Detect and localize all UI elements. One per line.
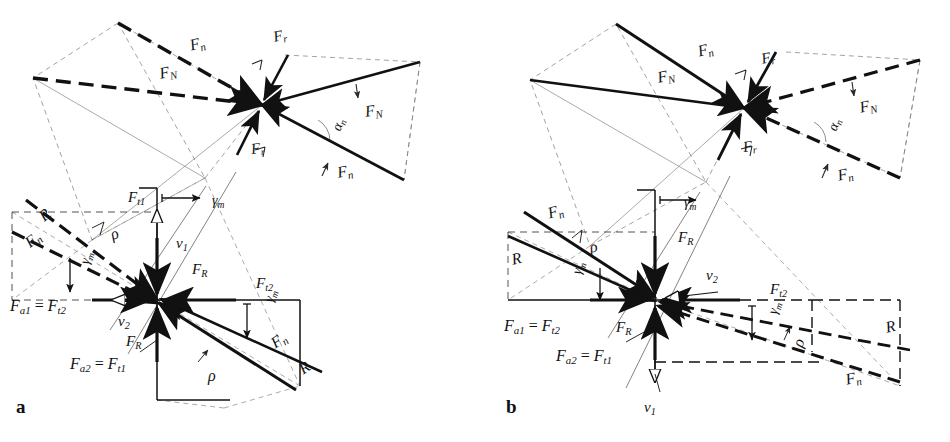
panel-a-label-fR-lower: FR xyxy=(126,334,141,351)
construction-outline-upper-right-b xyxy=(744,52,920,178)
panel-b-label-gamma-m-top: γm xyxy=(684,196,696,212)
vector-fn-right-b xyxy=(658,306,900,382)
panel-a-label-fa2-ft1: Fa2 = Ft1 xyxy=(70,356,126,374)
velocity-vectors-b xyxy=(655,292,718,382)
vector-R-right-b xyxy=(660,302,910,350)
panel-a-label-rho-right: ρ xyxy=(208,368,216,384)
vector-fn-upper-right-b xyxy=(744,108,900,178)
vector-fn-left-b xyxy=(524,212,655,297)
force-lines-upper-left-a xyxy=(33,23,262,105)
leader-v1-b xyxy=(655,374,660,392)
force-pair-upper-left-b xyxy=(508,212,655,301)
leader-fa2-a xyxy=(140,340,157,352)
force-pair-lower-right-a xyxy=(159,299,322,390)
panel-b-label-fa1-ft2: Fa1 = Ft2 xyxy=(504,318,560,336)
gamma-ticks-a xyxy=(70,194,251,338)
panel-a-label-v2: v2 xyxy=(118,314,130,331)
panel-a-label-fr-upper-bottom: Fr xyxy=(250,140,265,159)
panel-b-label-v1: v1 xyxy=(644,400,656,417)
panel-a-geometry xyxy=(12,23,420,408)
panel-b-label-fa2-ft1: Fa2 = Ft1 xyxy=(556,348,612,366)
panel-a-label-fN-upper-left: FN xyxy=(158,63,178,84)
force-lines-upper-left-b xyxy=(530,24,744,108)
velocity-vectors-a xyxy=(112,210,157,300)
panel-b-label-fR-upper: FR xyxy=(678,230,693,247)
panel-letter-b: b xyxy=(506,396,517,418)
panel-b-label-fN-upper-left: FN xyxy=(656,67,676,88)
force-diagram-figure: a b FnFNFrFrFNFnαnRFnργmFt1γmv1FRv2FRFa1… xyxy=(0,0,950,442)
panel-a-label-fa1-ft2: Fa1 = Ft2 xyxy=(10,298,66,316)
panel-a-label-fR-upper: FR xyxy=(192,262,207,279)
panel-b-label-fN-upper-right: FN xyxy=(858,96,878,117)
diagram-vector-canvas xyxy=(0,0,950,442)
vector-fN-upper-left-b xyxy=(530,80,744,108)
leader-ticks-upper-a xyxy=(252,60,358,176)
panel-a-label-v1: v1 xyxy=(176,236,188,253)
panel-b-label-fR-lower: FR xyxy=(616,320,631,337)
panel-a-label-ft1: Ft1 xyxy=(128,190,145,207)
vector-fN-upper-right-a xyxy=(262,62,420,105)
panel-a-label-fN-upper-right: FN xyxy=(364,102,383,122)
vector-fr-top-a xyxy=(264,55,288,100)
vector-fn-upper-left-b xyxy=(616,24,744,108)
panel-b-geometry xyxy=(508,24,920,392)
panel-b-label-v2: v2 xyxy=(706,268,718,285)
vector-fN-upper-left-a xyxy=(33,78,262,105)
panel-b-label-ft2: Ft2 xyxy=(770,282,787,299)
panel-letter-a: a xyxy=(16,396,26,418)
panel-a-label-fn-upper-right: Fn xyxy=(336,162,354,182)
axis-forces-b xyxy=(590,236,740,360)
vector-v2-b xyxy=(666,292,718,298)
construction-outline-upper-a xyxy=(33,23,262,240)
panel-b-label-fr-upper-bottom: Fr xyxy=(742,138,757,157)
panel-a-label-gamma-m-top: γm xyxy=(212,194,224,210)
force-pair-lower-right-b xyxy=(658,302,910,382)
